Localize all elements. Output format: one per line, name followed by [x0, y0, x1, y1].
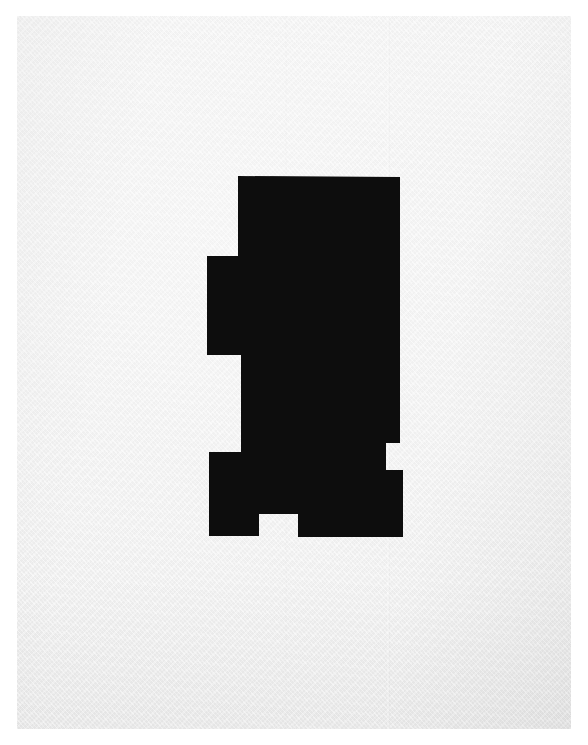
- image-canvas: Black rectilinear silhouette on textured…: [0, 0, 588, 745]
- paper-background: [17, 16, 571, 729]
